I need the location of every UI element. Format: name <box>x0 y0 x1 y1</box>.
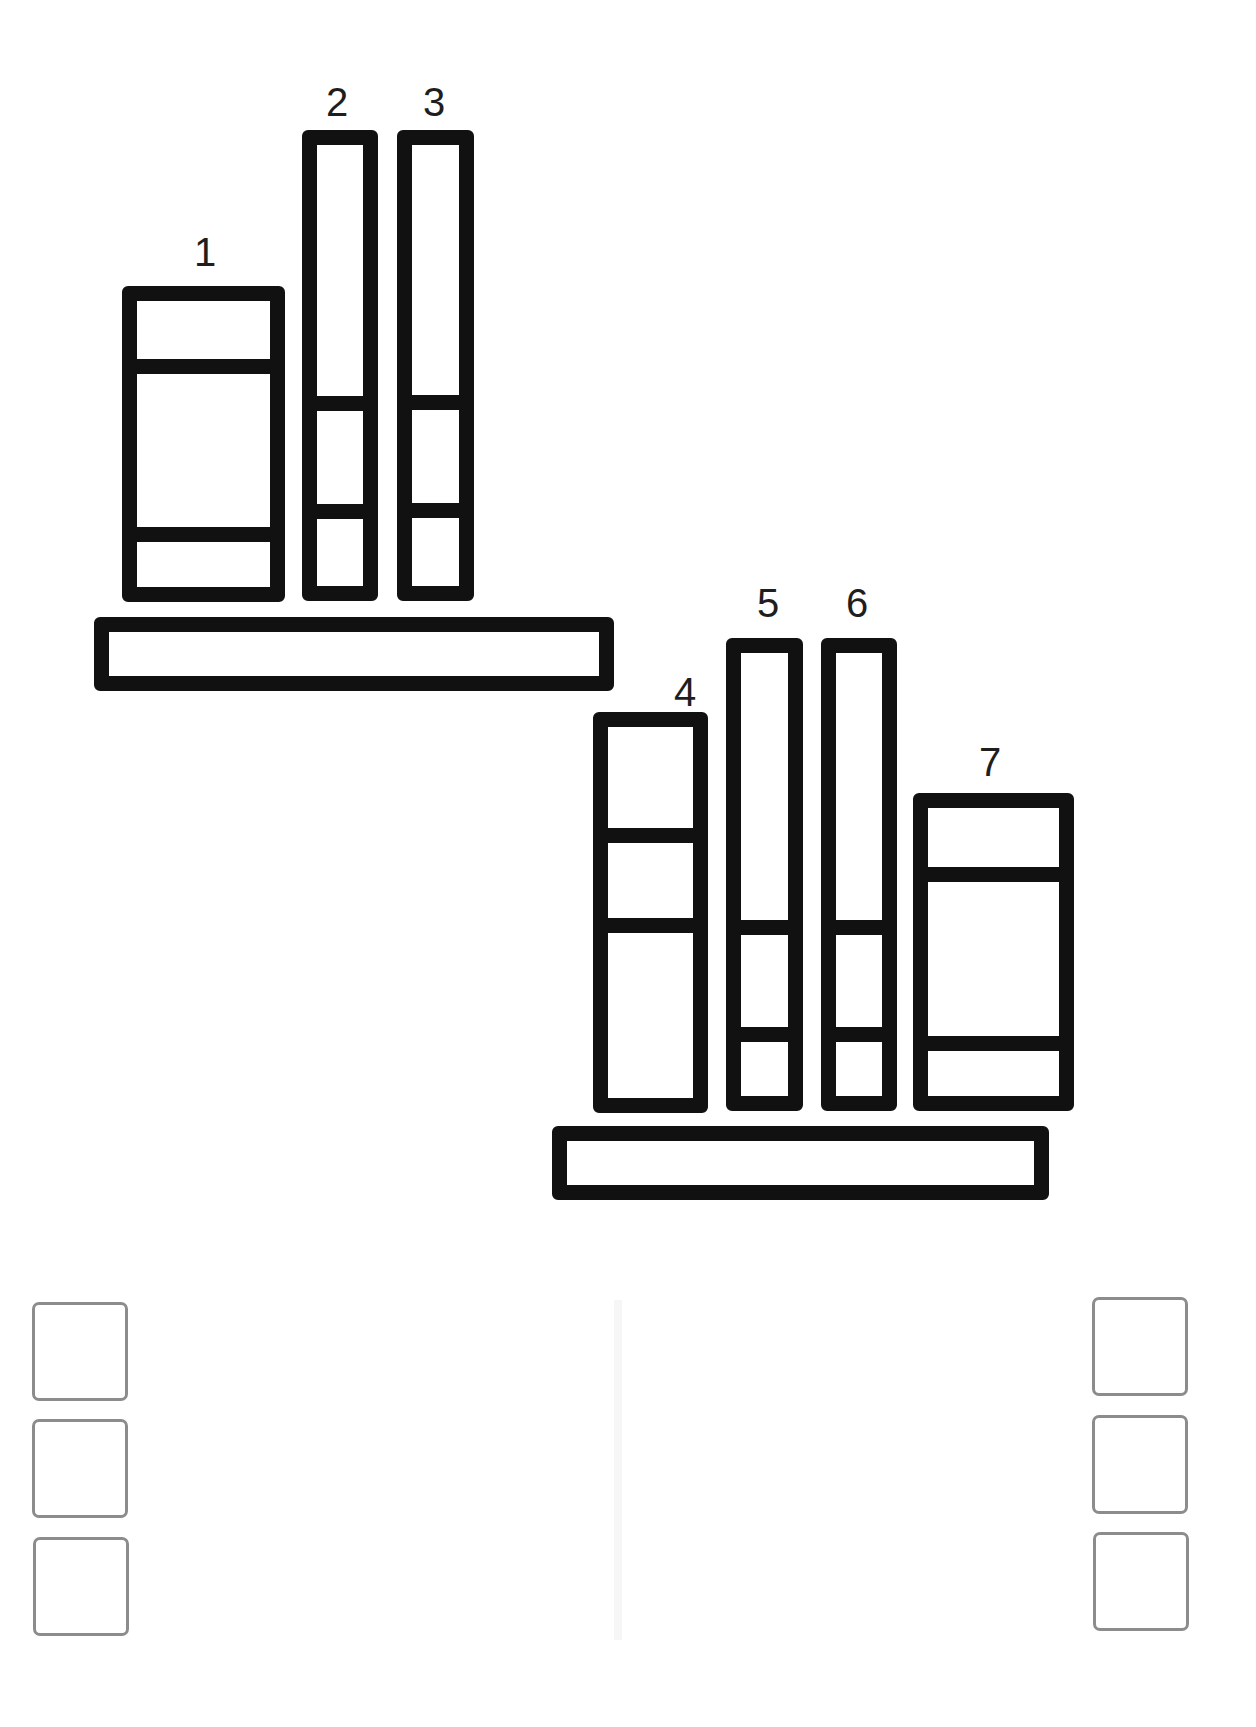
book-3 <box>397 130 474 601</box>
book-6 <box>821 638 897 1111</box>
diagram-canvas: 1 2 3 4 5 6 7 <box>0 0 1256 1727</box>
book-label-5: 5 <box>757 583 779 623</box>
book-label-7: 7 <box>979 742 1001 782</box>
book-1-divider-top <box>137 359 270 374</box>
book-7-divider-bottom <box>928 1036 1059 1051</box>
book-4-divider-top <box>608 828 693 843</box>
answer-box-right-1[interactable] <box>1092 1297 1188 1396</box>
book-7-divider-top <box>928 867 1059 882</box>
book-5 <box>726 638 803 1111</box>
book-6-divider-top <box>836 920 882 935</box>
book-1 <box>122 286 285 602</box>
answer-box-right-2[interactable] <box>1092 1415 1188 1514</box>
scan-artifact-line <box>614 1300 622 1640</box>
book-5-divider-top <box>741 920 788 935</box>
book-1-divider-bottom <box>137 527 270 542</box>
book-6-divider-bottom <box>836 1027 882 1042</box>
book-label-1: 1 <box>194 232 216 272</box>
book-5-divider-bottom <box>741 1027 788 1042</box>
book-3-divider-bottom <box>412 503 459 518</box>
book-4-divider-bottom <box>608 918 693 933</box>
book-7 <box>913 793 1074 1111</box>
book-2-divider-bottom <box>317 504 363 519</box>
bottom-shelf-board <box>552 1126 1049 1200</box>
answer-box-left-1[interactable] <box>32 1302 128 1401</box>
top-shelf-board <box>94 617 614 691</box>
book-3-divider-top <box>412 395 459 410</box>
answer-box-left-2[interactable] <box>32 1419 128 1518</box>
book-2 <box>302 130 378 601</box>
answer-box-left-3[interactable] <box>33 1537 129 1636</box>
book-label-3: 3 <box>423 82 445 122</box>
book-2-divider-top <box>317 396 363 411</box>
book-label-6: 6 <box>846 583 868 623</box>
book-label-4: 4 <box>674 672 696 712</box>
answer-box-right-3[interactable] <box>1093 1532 1189 1631</box>
book-4 <box>593 712 708 1113</box>
book-label-2: 2 <box>326 82 348 122</box>
